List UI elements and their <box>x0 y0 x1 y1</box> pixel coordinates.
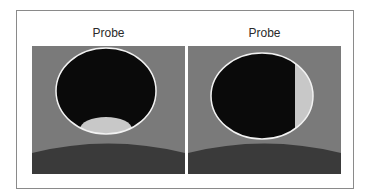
right-probe-illustration <box>188 46 341 174</box>
left-panel-title: Probe <box>32 26 185 40</box>
left-probe-panel <box>32 46 185 174</box>
right-panel-title: Probe <box>188 26 341 40</box>
right-probe-panel <box>188 46 341 174</box>
left-probe-illustration <box>32 46 185 174</box>
